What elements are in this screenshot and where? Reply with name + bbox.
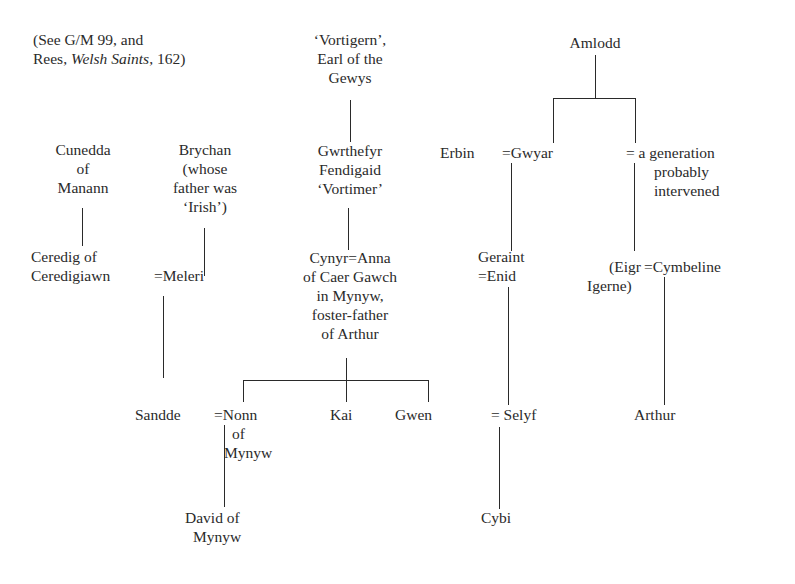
line-brychan-meleri xyxy=(204,228,205,276)
person-erbin: Erbin xyxy=(440,143,474,162)
line-to-gwen xyxy=(428,380,429,402)
person-gwen: Gwen xyxy=(395,405,432,424)
line-meleri-sandde xyxy=(163,296,164,378)
line-amlodd-down xyxy=(595,55,596,98)
line-cynyr-children xyxy=(243,380,429,381)
line-amlodd-gwyar xyxy=(553,98,554,143)
person-meleri: =Meleri xyxy=(154,266,204,285)
person-cunedda: Cunedda of Manann xyxy=(38,140,128,197)
line-gwyar-geraint xyxy=(511,163,512,251)
line-amlodd-children xyxy=(553,98,636,99)
line-generation-eigr xyxy=(634,163,635,251)
person-selyf: = Selyf xyxy=(491,405,536,424)
line-to-kai xyxy=(346,380,347,402)
line-amlodd-other xyxy=(635,98,636,143)
source-note: (See G/M 99, and Rees, Welsh Saints, 162… xyxy=(33,30,185,68)
person-gwrthefyr: Gwrthefyr Fendigaid ‘Vortimer’ xyxy=(300,141,400,198)
line-vortigern-gwrthefyr xyxy=(350,100,351,142)
person-nonn: =Nonn of Mynyw xyxy=(214,405,272,462)
person-cybi: Cybi xyxy=(481,508,511,527)
person-sandde: Sandde xyxy=(135,405,181,424)
generation-note: = a generation probably intervened xyxy=(626,143,719,200)
person-eigr: (Eigr Igerne) xyxy=(604,257,641,295)
person-ceredig: Ceredig of Ceredigiawn xyxy=(31,247,110,285)
line-enid-selyf xyxy=(508,287,509,405)
person-brychan: Brychan (whose father was ‘Irish’) xyxy=(158,140,252,216)
source-note-line-1: (See G/M 99, and xyxy=(33,30,185,49)
person-kai: Kai xyxy=(330,405,352,424)
person-david: David of Mynyw xyxy=(185,508,241,546)
person-cymbeline: =Cymbeline xyxy=(644,257,721,276)
welsh-saints-title: Welsh Saints xyxy=(71,50,149,67)
person-gwyar: =Gwyar xyxy=(502,143,553,162)
line-cymbeline-arthur xyxy=(664,277,665,405)
person-cynyr-anna: Cynyr=Anna of Caer Gawch in Mynyw, foste… xyxy=(280,248,420,343)
line-to-nonn xyxy=(243,380,244,402)
person-geraint-enid: Geraint =Enid xyxy=(478,247,524,285)
line-gwrthefyr-cynyr xyxy=(348,208,349,250)
person-arthur: Arthur xyxy=(634,405,675,424)
line-nonn-david xyxy=(224,425,225,507)
source-note-line-2: Rees, Welsh Saints, 162) xyxy=(33,49,185,68)
line-cynyr-down xyxy=(346,358,347,380)
person-amlodd: Amlodd xyxy=(560,33,630,52)
line-selyf-cybi xyxy=(499,427,500,509)
line-cunedda-ceredig xyxy=(82,208,83,246)
person-vortigern: ‘Vortigern’, Earl of the Gewys xyxy=(302,30,398,87)
